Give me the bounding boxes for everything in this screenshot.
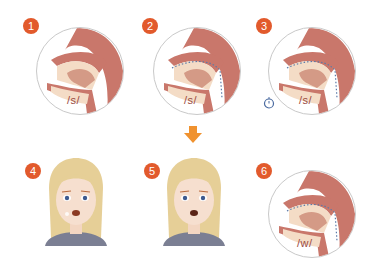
phoneme-label: /w/: [297, 237, 313, 249]
step-badge: 2: [142, 18, 158, 34]
face-illustration: [43, 158, 109, 246]
sagittal-diagram: /w/: [268, 170, 356, 258]
arrow-down-icon: [184, 126, 202, 144]
step-badge: 1: [23, 18, 39, 34]
step-badge: 5: [144, 163, 160, 179]
face-illustration: [161, 158, 227, 246]
step-badge: 3: [256, 18, 272, 34]
step-badge: 6: [256, 163, 272, 179]
phoneme-label: /s/: [67, 94, 80, 106]
sagittal-diagram: /s/: [36, 27, 124, 115]
phoneme-label: /s/: [299, 94, 312, 106]
sagittal-diagram: /s/: [153, 27, 241, 115]
sagittal-diagram: /s/: [268, 27, 356, 115]
step-badge: 4: [25, 163, 41, 179]
phoneme-label: /s/: [184, 94, 197, 106]
timer-icon: [263, 97, 275, 109]
